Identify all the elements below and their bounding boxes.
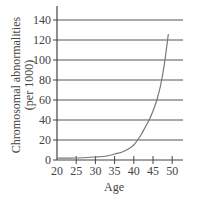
y-tick-label: 40	[39, 113, 51, 127]
y-tick-label: 120	[33, 33, 51, 47]
axes	[57, 6, 183, 160]
y-tick-label: 20	[39, 133, 51, 147]
x-tick-label: 20	[51, 164, 63, 178]
y-tick-label: 80	[39, 73, 51, 87]
y-axis-title-line1: Chromosomal abnormalities	[9, 17, 23, 154]
x-tick-label: 25	[70, 164, 82, 178]
chart: 020406080100120140 20253035404550 Age Ch…	[0, 0, 202, 201]
y-tick-label: 60	[39, 93, 51, 107]
gridlines	[57, 20, 183, 140]
x-tick-label: 30	[89, 164, 101, 178]
x-tick-label: 40	[128, 164, 140, 178]
y-axis-title-line2: (per 1000)	[22, 60, 36, 110]
x-tick-label: 35	[109, 164, 121, 178]
y-axis-title: Chromosomal abnormalities (per 1000)	[9, 17, 36, 154]
x-tick-label: 50	[166, 164, 178, 178]
x-axis-ticks: 20253035404550	[51, 156, 178, 178]
x-axis-title: Age	[104, 180, 124, 194]
x-tick-label: 45	[147, 164, 159, 178]
y-axis-ticks: 020406080100120140	[33, 13, 57, 167]
y-tick-label: 140	[33, 13, 51, 27]
data-curve	[57, 34, 168, 158]
